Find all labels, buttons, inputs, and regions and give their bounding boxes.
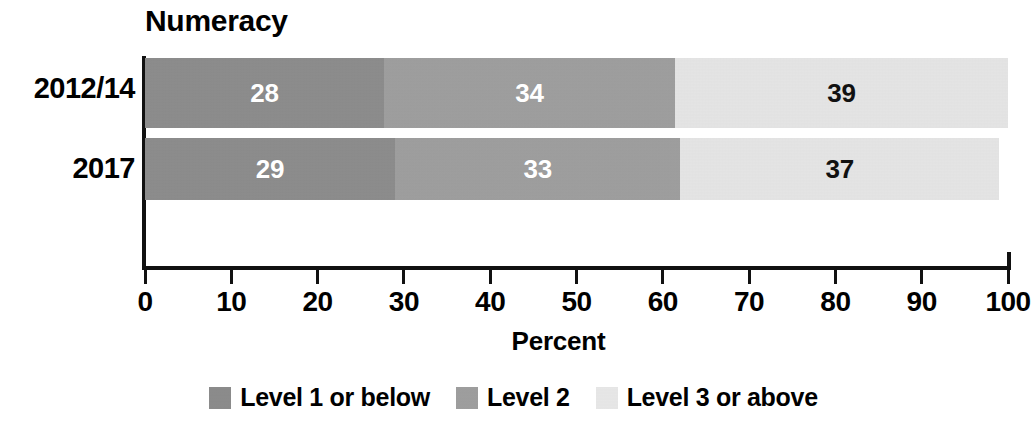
bar-segment[interactable]: 37 [680,138,999,200]
legend-label: Level 1 or below [240,383,430,412]
table-row: 28 34 39 [145,58,1008,128]
x-axis-tick-label: 10 [216,286,246,318]
legend-swatch-icon [456,387,478,409]
x-axis-title: Percent [0,326,1027,357]
x-axis-tick-label: 80 [820,286,850,318]
bar-segment[interactable]: 28 [145,58,384,128]
legend-swatch-icon [209,387,231,409]
bar-segment[interactable]: 34 [384,58,675,128]
legend-label: Level 3 or above [627,383,818,412]
x-axis-tick [661,270,664,284]
bar-value-label: 28 [250,78,279,109]
x-axis-tick-label: 30 [389,286,419,318]
bar-segment[interactable]: 29 [145,138,395,200]
x-axis-tick-label: 70 [734,286,764,318]
x-axis-tick [144,270,147,284]
category-label-2017: 2017 [0,152,135,185]
bar-segment[interactable]: 33 [395,138,680,200]
bar-value-label: 33 [523,154,552,185]
legend-item[interactable]: Level 1 or below [209,383,430,412]
x-axis-tick-label: 20 [303,286,333,318]
x-axis-tick [316,270,319,284]
x-axis-tick-label: 60 [648,286,678,318]
x-axis-tick-label: 0 [137,286,152,318]
x-axis-tick-label: 50 [561,286,591,318]
x-axis-tick-label: 40 [475,286,505,318]
table-row: 29 33 37 [145,138,1008,200]
chart-title: Numeracy [145,4,288,38]
category-label-2012-14: 2012/14 [0,72,135,105]
bar-value-label: 29 [256,154,285,185]
x-axis-tick [402,270,405,284]
x-axis-tick [834,270,837,284]
legend-item[interactable]: Level 3 or above [596,383,818,412]
x-axis-tick-label: 100 [985,286,1030,318]
bar-value-label: 37 [825,154,854,185]
x-axis-tick [748,270,751,284]
plot-area: 28 34 39 29 33 37 [145,56,1008,268]
legend-swatch-icon [596,387,618,409]
legend-label: Level 2 [487,383,570,412]
chart-legend: Level 1 or belowLevel 2Level 3 or above [0,383,1027,412]
x-axis-tick [575,270,578,284]
bar-value-label: 39 [827,78,856,109]
legend-item[interactable]: Level 2 [456,383,570,412]
bar-segment[interactable]: 39 [675,58,1008,128]
x-axis-tick [1007,270,1010,284]
bar-value-label: 34 [515,78,544,109]
x-axis-tick [230,270,233,284]
x-axis-tick [920,270,923,284]
x-axis-tick [489,270,492,284]
x-axis-tick-label: 90 [907,286,937,318]
